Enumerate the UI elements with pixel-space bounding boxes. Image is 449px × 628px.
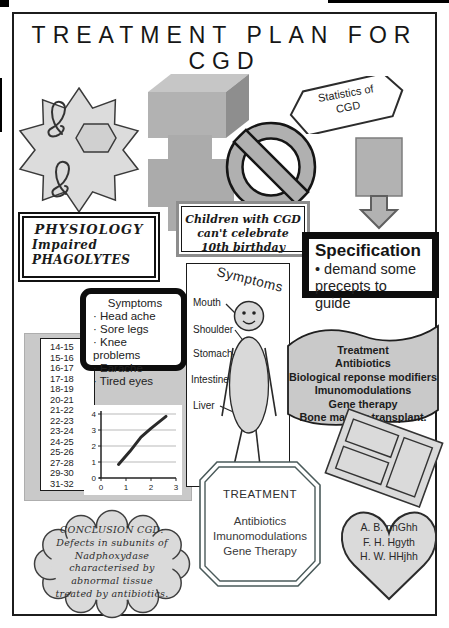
age-range-item: 17-18 — [50, 374, 94, 385]
symptoms-list-box: Symptoms Head ache Sore legs Knee proble… — [80, 288, 187, 371]
author-name: H. W. HHjhh — [341, 549, 437, 564]
scan-artifact-edge — [0, 78, 2, 132]
physiology-line: PHAGOLYTES — [32, 253, 146, 268]
chart-canvas: 012340123 — [84, 405, 182, 495]
treatment-item: Antibiotics — [197, 514, 323, 529]
mini-line-chart: 012340123 — [84, 405, 182, 495]
label-liver: Liver — [193, 400, 215, 411]
specification-title: Specification — [315, 240, 426, 261]
conclusion-line: Nadphoxydase — [44, 550, 180, 563]
no-symbol-icon — [224, 120, 318, 214]
symptom-item: Sore legs — [93, 323, 177, 336]
conclusion-line: CONCLUSION CGD: — [44, 524, 180, 537]
down-arrow-icon — [361, 196, 397, 228]
symptom-item: Tired eyes — [93, 375, 177, 388]
figure-torso — [230, 337, 269, 433]
specification-box: Specification • demand some precepts to … — [302, 232, 439, 298]
svg-text:1: 1 — [92, 458, 97, 467]
poster-title-line1: TREATMENT PLAN FOR — [0, 22, 449, 49]
physiology-box: PHYSIOLOGY Impaired PHAGOLYTES — [18, 212, 160, 282]
arrow-rect — [356, 138, 402, 196]
label-stomach: Stomach — [193, 348, 232, 359]
children-cgd-box: Children with CGD can't celebrate 10th b… — [176, 201, 310, 257]
conclusion-line: characterised by — [44, 562, 180, 575]
age-range-item: 18-19 — [50, 384, 94, 395]
figure-head — [235, 302, 264, 331]
poster-title-line2: CGD — [0, 48, 449, 75]
label-intestine: Intestine — [191, 374, 229, 385]
wave-line: Biological reponse modifiers — [288, 371, 438, 384]
treatment-item: Gene Therapy — [197, 544, 323, 559]
treatment-box-text: TREATMENT Antibiotics Imunomodulations G… — [197, 488, 323, 559]
svg-text:0: 0 — [99, 483, 104, 492]
conclusion-line: abnormal tissue — [44, 575, 180, 588]
author-name: A. B. nhGhh — [341, 520, 437, 535]
specification-bullet: • demand some precepts to guide — [315, 261, 426, 312]
svg-text:0: 0 — [92, 474, 97, 483]
conclusion-line: treated by antibiotics. — [44, 588, 180, 601]
author-names: A. B. nhGhh F. H. Hgyth H. W. HHjhh — [341, 520, 437, 564]
figure-eye — [252, 311, 256, 315]
children-cgd-box-inner: Children with CGD can't celebrate 10th b… — [181, 206, 305, 252]
age-range-item: 20-21 — [50, 395, 94, 406]
label-mouth: Mouth — [193, 297, 221, 308]
symptoms-title: Symptoms — [93, 296, 177, 310]
hexagon-icon — [76, 124, 116, 152]
conclusion-cloud-text: CONCLUSION CGD: Defects in subunits of N… — [44, 524, 180, 601]
symptom-item: Head ache — [93, 310, 177, 323]
physiology-box-inner: PHYSIOLOGY Impaired PHAGOLYTES — [22, 216, 156, 278]
svg-text:4: 4 — [92, 410, 97, 419]
treatment-title: TREATMENT — [197, 488, 323, 500]
wave-line: Imunomodulations — [288, 384, 438, 397]
down-arrow-callout — [350, 136, 408, 230]
symptom-item: Knee problems — [93, 336, 177, 362]
conclusion-line: Defects in subunits of — [44, 537, 180, 550]
starburst-cell-shape — [14, 82, 146, 218]
figure-eye — [242, 311, 246, 315]
svg-text:2: 2 — [92, 442, 97, 451]
poster-page: TREATMENT PLAN FOR CGD Statistics of CGD — [0, 0, 449, 628]
svg-text:3: 3 — [174, 483, 179, 492]
scan-artifact-line — [328, 0, 449, 3]
author-name: F. H. Hgyth — [341, 535, 437, 550]
label-shoulder: Shoulder — [193, 324, 233, 335]
svg-text:1: 1 — [124, 483, 129, 492]
cube-front-face — [148, 92, 226, 138]
symptom-item: Earache — [93, 362, 177, 375]
svg-text:2: 2 — [149, 483, 154, 492]
children-line2: can't celebrate 10th birthday — [182, 227, 304, 255]
wave-line: Antibiotics — [288, 357, 438, 370]
star-outline — [20, 88, 138, 212]
physiology-line: Impaired — [32, 238, 146, 253]
scan-artifact-corner — [0, 0, 9, 7]
wave-line: Treatment — [288, 344, 438, 357]
body-symptoms-panel: Symptoms Mouth Shoulder Stomach Intestin… — [186, 263, 290, 487]
children-line1: Children with CGD — [182, 213, 304, 227]
treatment-item: Imunomodulations — [197, 529, 323, 544]
physiology-title: PHYSIOLOGY — [32, 221, 146, 238]
svg-text:3: 3 — [92, 426, 97, 435]
